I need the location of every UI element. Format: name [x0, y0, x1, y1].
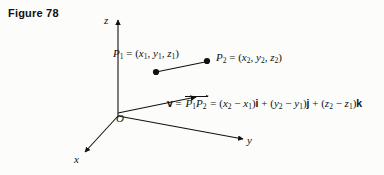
- pp-first-sub: 1: [192, 102, 196, 111]
- plus-1: + (: [259, 97, 274, 109]
- p1-z-sub: 1: [171, 52, 175, 61]
- pp-second-sub: 2: [203, 102, 207, 111]
- minus-3: −: [333, 97, 345, 109]
- minus-1: −: [232, 97, 244, 109]
- term2-b-sub: 1: [299, 102, 303, 111]
- overbar-arrow-icon: [185, 96, 208, 97]
- term3-b-sub: 1: [349, 102, 353, 111]
- origin-label: O: [116, 112, 124, 124]
- p1-equals: = (: [123, 47, 138, 59]
- equation-equals-2: = (: [208, 97, 223, 109]
- point-p2-label: P2 = (x2, y2, z2): [216, 52, 282, 63]
- p2-z-sub: 2: [274, 56, 278, 65]
- x-axis: [85, 116, 118, 152]
- p1-close: ): [175, 47, 179, 59]
- term1-a-sub: 2: [228, 102, 232, 111]
- p2-close: ): [278, 51, 282, 63]
- point-p1-dot: [153, 69, 159, 75]
- term3-a-sub: 2: [329, 102, 333, 111]
- coordinate-axes-diagram: [0, 0, 384, 175]
- z-axis-label: z: [104, 14, 108, 26]
- p1-x-sub: 1: [144, 52, 148, 61]
- y-axis-label: y: [247, 134, 252, 146]
- equation-equals-1: =: [173, 97, 185, 109]
- vector-component-equation: v = P1P2 = (x2 − x1)i + (y2 − y1)j + (z2…: [167, 98, 362, 109]
- segment-p1-p2: [156, 62, 205, 72]
- point-p2-dot: [204, 58, 210, 64]
- minus-2: −: [283, 97, 295, 109]
- p2-y-sub: 2: [261, 56, 265, 65]
- point-p1-label: P1 = (x1, y1, z1): [113, 48, 179, 59]
- p1-y-sub: 1: [158, 52, 162, 61]
- p2-subscript: 2: [223, 56, 227, 65]
- y-axis: [118, 116, 243, 139]
- p2-x-sub: 2: [247, 56, 251, 65]
- term2-a-sub: 2: [279, 102, 283, 111]
- term1-b-sub: 1: [248, 102, 252, 111]
- p2-symbol: P: [216, 51, 223, 63]
- unit-vector-k: k: [356, 97, 362, 109]
- pp-second-symbol: P: [196, 97, 203, 109]
- x-axis-label: x: [74, 153, 79, 165]
- p1-subscript: 1: [120, 52, 124, 61]
- p1p2-vector-notation: P1P2: [185, 98, 208, 109]
- plus-2: + (: [309, 97, 324, 109]
- p2-equals: = (: [226, 51, 241, 63]
- p1-symbol: P: [113, 47, 120, 59]
- figure-page: Figure 78 P1 = (x1, y1, z1) P2 = (x2, y2…: [0, 0, 384, 175]
